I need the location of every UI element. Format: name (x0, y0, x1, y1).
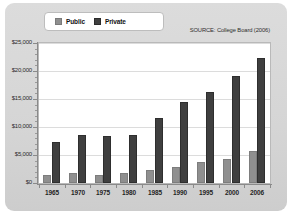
y-axis-label: $0 (26, 179, 32, 185)
y-axis-minor-tick (35, 88, 37, 89)
y-axis-tick (33, 71, 37, 72)
y-axis-tick (33, 127, 37, 128)
y-axis-minor-tick (35, 82, 37, 83)
x-axis-tick (65, 184, 66, 188)
public-swatch-icon (55, 18, 62, 25)
bar-private-2006 (257, 58, 265, 183)
y-axis-tick (33, 99, 37, 100)
legend-label-public: Public (66, 18, 85, 25)
y-axis-minor-tick (35, 161, 37, 162)
y-axis-minor-tick (35, 172, 37, 173)
y-axis-minor-tick (35, 138, 37, 139)
bar-private-1995 (206, 92, 214, 183)
x-axis-label-2000: 2000 (218, 189, 246, 196)
x-axis-tick (167, 184, 168, 188)
legend-item-public: Public (55, 18, 85, 25)
bar-public-1985 (146, 170, 154, 183)
y-axis-tick (33, 183, 37, 184)
y-axis-minor-tick (35, 166, 37, 167)
x-axis-tick (142, 184, 143, 188)
x-axis-line (37, 184, 272, 185)
x-axis-label-1970: 1970 (64, 189, 92, 196)
y-axis-line (37, 42, 38, 185)
y-axis-minor-tick (35, 121, 37, 122)
bar-private-2000 (232, 76, 240, 183)
x-axis-label-2006: 2006 (243, 189, 271, 196)
bar-public-2000 (223, 159, 231, 183)
y-axis-label: $5,000 (15, 151, 32, 157)
private-swatch-icon (94, 18, 101, 25)
y-axis-label: $20,000 (12, 67, 32, 73)
x-axis-label-1975: 1975 (89, 189, 117, 196)
legend-item-private: Private (94, 18, 126, 25)
bar-private-1975 (103, 136, 111, 183)
y-axis-minor-tick (35, 144, 37, 145)
x-axis-tick (270, 184, 271, 188)
bar-public-1995 (197, 162, 205, 183)
source-note: SOURCE: College Board (2006) (190, 27, 270, 33)
bar-private-1990 (180, 102, 188, 183)
y-axis-minor-tick (35, 177, 37, 178)
bar-private-1985 (155, 118, 163, 183)
gridline (39, 43, 270, 44)
y-axis-tick (33, 155, 37, 156)
gridline (39, 71, 270, 72)
bar-public-1970 (69, 173, 77, 183)
x-axis-label-1990: 1990 (166, 189, 194, 196)
bar-private-1965 (52, 142, 60, 183)
x-axis-tick (193, 184, 194, 188)
chart-legend: Public Private (44, 12, 164, 31)
x-axis-label-1980: 1980 (115, 189, 143, 196)
chart-figure: Public Private SOURCE: College Board (20… (0, 0, 294, 217)
y-axis-minor-tick (35, 49, 37, 50)
y-axis-minor-tick (35, 116, 37, 117)
x-axis-tick (116, 184, 117, 188)
bar-public-1975 (95, 175, 103, 183)
bar-public-1980 (120, 173, 128, 183)
y-axis-minor-tick (35, 110, 37, 111)
y-axis-minor-tick (35, 60, 37, 61)
y-axis-minor-tick (35, 133, 37, 134)
y-axis-minor-tick (35, 93, 37, 94)
bar-private-1980 (129, 135, 137, 183)
x-axis-tick (219, 184, 220, 188)
bar-private-1970 (78, 135, 86, 183)
plot-area (39, 43, 270, 183)
y-axis-label: $15,000 (12, 95, 32, 101)
bar-public-2006 (249, 151, 257, 183)
y-axis-minor-tick (35, 54, 37, 55)
y-axis-label: $10,000 (12, 123, 32, 129)
bar-public-1965 (43, 175, 51, 183)
y-axis-minor-tick (35, 149, 37, 150)
y-axis-label: $25,000 (12, 39, 32, 45)
x-axis-tick (244, 184, 245, 188)
x-axis-label-1995: 1995 (192, 189, 220, 196)
x-axis-label-1965: 1965 (38, 189, 66, 196)
y-axis-minor-tick (35, 65, 37, 66)
y-axis-minor-tick (35, 77, 37, 78)
y-axis-labels: $0$5,000$10,000$15,000$20,000$25,000 (0, 0, 32, 217)
x-axis-tick (90, 184, 91, 188)
x-axis-tick (39, 184, 40, 188)
bar-public-1990 (172, 167, 180, 183)
y-axis-minor-tick (35, 105, 37, 106)
legend-label-private: Private (105, 18, 126, 25)
y-axis-tick (33, 43, 37, 44)
x-axis-label-1985: 1985 (141, 189, 169, 196)
